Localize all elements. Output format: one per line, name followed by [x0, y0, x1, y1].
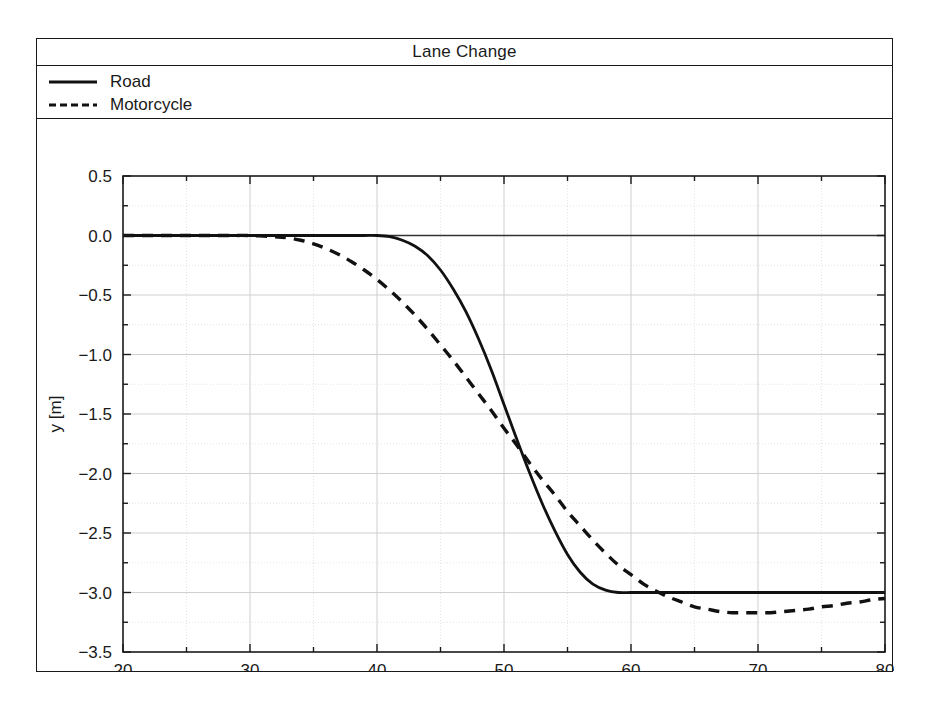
y-tick-label: −2.0 [78, 465, 112, 484]
legend-label-road: Road [110, 72, 151, 92]
line-chart: 20304050607080 0.50.0−0.5−1.0−1.5−2.0−2.… [37, 119, 894, 671]
legend: Road Motorcycle [37, 66, 892, 119]
y-tick-label: −1.5 [78, 405, 112, 424]
y-tick-labels: 0.50.0−0.5−1.0−1.5−2.0−2.5−3.0−3.5 [78, 167, 112, 662]
chart-title-bar: Lane Change [37, 39, 892, 66]
legend-label-motorcycle: Motorcycle [110, 95, 192, 115]
grid-major [123, 176, 885, 652]
legend-item-road: Road [47, 70, 892, 93]
y-tick-label: −3.5 [78, 643, 112, 662]
x-tick-label: 80 [876, 661, 894, 671]
x-tick-label: 40 [368, 661, 387, 671]
y-tick-label: −2.5 [78, 524, 112, 543]
x-tick-label: 60 [622, 661, 641, 671]
y-tick-label: −0.5 [78, 286, 112, 305]
y-tick-label: 0.5 [88, 167, 112, 186]
page-title: Lane Change [412, 42, 516, 62]
y-tick-label: −1.0 [78, 346, 112, 365]
x-tick-label: 70 [749, 661, 768, 671]
y-tick-label: 0.0 [88, 227, 112, 246]
x-tick-label: 50 [495, 661, 514, 671]
x-tick-label: 30 [241, 661, 260, 671]
legend-line-solid-icon [47, 76, 99, 88]
y-axis-title: y [m] [46, 396, 65, 433]
legend-item-motorcycle: Motorcycle [47, 93, 892, 116]
y-tick-label: −3.0 [78, 584, 112, 603]
legend-line-dashed-icon [47, 99, 99, 111]
figure-container: Lane Change Road Motorcycle 203040506070… [36, 38, 893, 672]
x-tick-labels: 20304050607080 [114, 661, 894, 671]
x-tick-label: 20 [114, 661, 133, 671]
plot-area-wrapper: 20304050607080 0.50.0−0.5−1.0−1.5−2.0−2.… [37, 119, 892, 671]
